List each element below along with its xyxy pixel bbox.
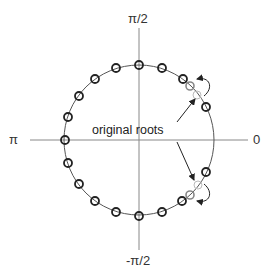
- root-marker: [75, 92, 83, 100]
- annotation-original-roots: original roots: [92, 124, 164, 137]
- move-arrow-upper: [197, 79, 210, 96]
- shifted-root-upper: [186, 82, 194, 90]
- annotation-arrow-lower: [177, 142, 194, 180]
- axis-label-pi: π: [9, 133, 18, 146]
- root-locus-diagram: π/2 -π/2 π 0 original roots: [0, 0, 271, 278]
- root-marker: [75, 180, 83, 188]
- diagram-canvas: [0, 0, 271, 278]
- axis-label-zero: 0: [253, 133, 260, 146]
- original-root-lower: [194, 181, 202, 189]
- axis-label-pi-over-2: π/2: [128, 12, 148, 25]
- axis-label-neg-pi-over-2: -π/2: [126, 254, 150, 267]
- move-arrow-lower: [197, 184, 210, 201]
- annotation-arrow-upper: [177, 99, 195, 122]
